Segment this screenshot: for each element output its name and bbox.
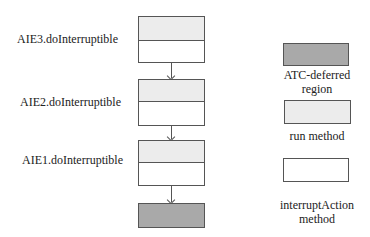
- legend-label-run-method: run method: [270, 129, 364, 143]
- legend-ia-line1: interruptAction: [265, 198, 369, 212]
- aie3-frame: [138, 16, 205, 63]
- arrow-down-icon: [171, 63, 172, 78]
- atc-deferred-region-box: [138, 203, 205, 228]
- label-aie3: AIE3.doInterruptible: [17, 32, 118, 47]
- legend-label-interrupt-action: interruptAction method: [265, 198, 369, 226]
- legend-swatch-interrupt-action: [283, 158, 349, 182]
- label-aie1: AIE1.doInterruptible: [22, 153, 123, 168]
- aie3-run-method: [139, 17, 204, 41]
- arrow-down-icon: [171, 186, 172, 202]
- legend-ia-line2: method: [265, 212, 369, 226]
- legend-swatch-run-method: [284, 100, 351, 124]
- legend-atc-line1: ATC-deferred: [270, 68, 364, 82]
- aie1-run-method: [139, 141, 204, 163]
- legend-swatch-atc-deferred: [283, 43, 349, 66]
- legend-label-atc-deferred: ATC-deferred region: [270, 68, 364, 96]
- aie2-run-method: [139, 80, 204, 102]
- label-aie2: AIE2.doInterruptible: [20, 95, 121, 110]
- arrow-down-icon: [171, 126, 172, 139]
- aie1-frame: [138, 140, 205, 186]
- aie2-frame: [138, 79, 205, 126]
- legend-atc-line2: region: [270, 82, 364, 96]
